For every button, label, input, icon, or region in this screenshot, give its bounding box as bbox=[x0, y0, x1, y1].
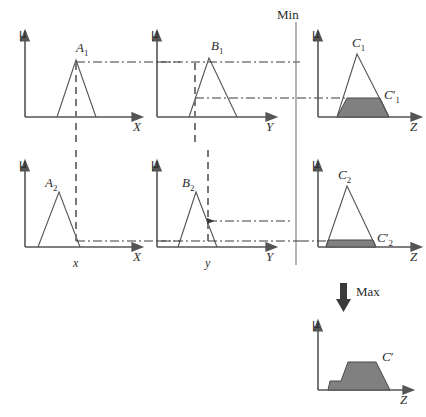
axis-label-mu-output: μ bbox=[312, 318, 320, 330]
axis-label-z-c1: Z bbox=[410, 120, 417, 133]
set-label-c2-sub: 2 bbox=[347, 175, 351, 185]
set-label-b2-sub: 2 bbox=[190, 183, 194, 193]
set-label-a2-base: A bbox=[45, 175, 53, 190]
set-label-c-output: C′ bbox=[382, 350, 394, 363]
set-label-b1-base: B bbox=[211, 38, 219, 53]
aggregated-region-output bbox=[328, 362, 390, 390]
clipped-region-c2 bbox=[326, 240, 376, 247]
axis-label-z-output: Z bbox=[400, 393, 407, 406]
set-label-c1-clipped-sub: 1 bbox=[396, 95, 400, 105]
set-label-a2-sub: 2 bbox=[53, 183, 57, 193]
set-label-c-output-base: C bbox=[382, 349, 391, 364]
set-label-a2: A2 bbox=[45, 176, 57, 192]
set-label-c2-clipped-base: C bbox=[377, 230, 386, 245]
set-label-c1-clipped: C′1 bbox=[384, 88, 400, 104]
set-label-a1: A1 bbox=[76, 41, 88, 57]
membership-triangle-c2 bbox=[326, 186, 376, 247]
input-marker-y: y bbox=[205, 257, 210, 269]
set-label-b2: B2 bbox=[182, 176, 194, 192]
set-label-b1-sub: 1 bbox=[219, 46, 223, 56]
axis-label-y-b2: Y bbox=[266, 250, 273, 263]
max-arrow-icon bbox=[336, 283, 351, 312]
axis-label-x-a1: X bbox=[133, 120, 141, 133]
axis-label-mu-a2: μ bbox=[19, 158, 27, 170]
fuzzy-inference-figure: μ μ μ μ μ μ μ X Y Z X Y Z Z x y Min Max … bbox=[0, 0, 426, 417]
set-label-c1-clipped-base: C bbox=[384, 87, 393, 102]
axis-label-x-a2: X bbox=[133, 250, 141, 263]
chart-b1 bbox=[157, 40, 345, 142]
chart-b2 bbox=[157, 150, 300, 247]
axis-label-z-c2: Z bbox=[410, 250, 417, 263]
axis-label-mu-b2: μ bbox=[151, 158, 159, 170]
operator-label-max: Max bbox=[356, 285, 380, 298]
membership-triangle-b1 bbox=[189, 58, 237, 117]
set-label-b2-base: B bbox=[182, 175, 190, 190]
input-marker-x: x bbox=[73, 257, 78, 269]
axis-label-mu-a1: μ bbox=[19, 28, 27, 40]
set-label-c2-base: C bbox=[338, 167, 347, 182]
prime-symbol-output: ′ bbox=[391, 349, 394, 364]
set-label-c2-clipped-sub: 2 bbox=[389, 238, 393, 248]
set-label-a1-sub: 1 bbox=[84, 48, 88, 58]
chart-c2 bbox=[300, 170, 412, 247]
set-label-c1-sub: 1 bbox=[361, 43, 365, 53]
membership-triangle-a2 bbox=[38, 192, 80, 247]
set-label-c1-base: C bbox=[352, 35, 361, 50]
set-label-c2: C2 bbox=[338, 168, 351, 184]
set-label-c1: C1 bbox=[352, 36, 365, 52]
axis-label-mu-c1: μ bbox=[312, 28, 320, 40]
figure-canvas bbox=[0, 0, 426, 417]
operator-label-min: Min bbox=[277, 8, 299, 21]
set-label-c2-clipped: C′2 bbox=[377, 231, 393, 247]
axis-label-mu-c2: μ bbox=[312, 158, 320, 170]
set-label-a1-base: A bbox=[76, 40, 84, 55]
membership-triangle-b2 bbox=[178, 192, 217, 247]
axis-label-y-b1: Y bbox=[266, 120, 273, 133]
set-label-b1: B1 bbox=[211, 39, 223, 55]
axis-label-mu-b1: μ bbox=[151, 28, 159, 40]
